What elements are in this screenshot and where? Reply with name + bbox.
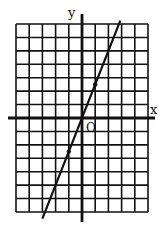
coordinate-plane: x y O [0, 0, 163, 227]
origin-label: O [86, 121, 96, 135]
y-axis-label: y [67, 5, 76, 20]
x-axis-label: x [150, 102, 158, 117]
point-marker [93, 82, 97, 86]
point-marker [67, 149, 71, 153]
